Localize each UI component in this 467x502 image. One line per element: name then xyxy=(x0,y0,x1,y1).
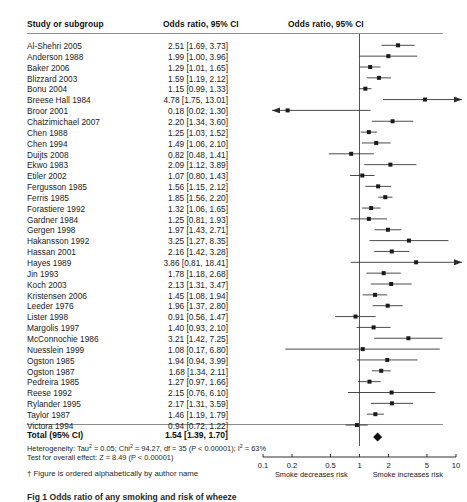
effect-marker xyxy=(385,358,389,362)
effect-marker xyxy=(367,217,371,221)
study-odds-ratio-value: 1.25 [0.81, 1.93] xyxy=(110,215,228,225)
study-odds-ratio-value: 1.68 [1.34, 2.11] xyxy=(110,367,228,377)
axis-tick-label: 2 xyxy=(386,461,390,470)
effect-marker xyxy=(390,249,394,253)
study-odds-ratio-value: 1.97 [1.43, 2.71] xyxy=(110,225,228,235)
study-label: Ogston 1985 xyxy=(27,356,75,366)
study-label: Chatzimichael 2007 xyxy=(27,117,100,127)
study-label: Koch 2003 xyxy=(27,280,67,290)
study-odds-ratio-value: 1.78 [1.18, 2.68] xyxy=(110,269,228,279)
axis-tick-label: 0.5 xyxy=(325,461,336,470)
study-odds-ratio-value: 1.15 [0.99, 1.33] xyxy=(110,84,228,94)
study-odds-ratio-value: 1.08 [0.17, 6.80] xyxy=(110,345,228,355)
effect-marker xyxy=(368,65,372,69)
study-odds-ratio-value: 2.17 [1.31, 3.59] xyxy=(110,399,228,409)
study-label: Hassan 2001 xyxy=(27,247,76,257)
heterogeneity-stats: Heterogeneity: Tau2 = 0.05; Chi2 = 94.27… xyxy=(27,443,266,453)
study-label: Taylor 1987 xyxy=(27,410,70,420)
effect-marker xyxy=(390,401,394,405)
axis-tick-label: 1 xyxy=(357,461,361,470)
effect-marker xyxy=(376,184,380,188)
column-header-plot: Odds ratio, 95% CI xyxy=(288,19,364,29)
effect-marker xyxy=(349,152,353,156)
study-label: Hakansson 1992 xyxy=(27,236,89,246)
effect-marker xyxy=(414,260,418,264)
effect-marker xyxy=(406,336,410,340)
study-odds-ratio-value: 1.56 [1.15, 2.12] xyxy=(110,182,228,192)
effect-marker xyxy=(407,239,411,243)
study-odds-ratio-value: 1.25 [1.03, 1.52] xyxy=(110,128,228,138)
study-label: Chen 1994 xyxy=(27,139,68,149)
study-odds-ratio-value: 1.45 [1.08, 1.94] xyxy=(110,291,228,301)
effect-marker xyxy=(382,271,386,275)
effect-marker xyxy=(390,391,394,395)
effect-marker xyxy=(386,304,390,308)
study-label: Etiler 2002 xyxy=(27,171,67,181)
study-label: Broor 2001 xyxy=(27,106,68,116)
study-label: Nuesslein 1999 xyxy=(27,345,84,355)
effect-marker xyxy=(389,282,393,286)
study-label: Anderson 1988 xyxy=(27,52,83,62)
study-odds-ratio-value: 2.16 [1.42, 3.28] xyxy=(110,247,228,257)
study-odds-ratio-value: 1.99 [1.00, 3.96] xyxy=(110,52,228,62)
effect-marker xyxy=(388,163,392,167)
study-label: Fergusson 1985 xyxy=(27,182,87,192)
study-odds-ratio-value: 1.85 [1.56, 2.20] xyxy=(110,193,228,203)
overall-effect-stats: Test for overall effect: Z = 8.49 (P < 0… xyxy=(27,453,173,462)
effect-marker xyxy=(360,174,364,178)
study-label: Al-Shehri 2005 xyxy=(27,41,82,51)
column-header-odds-ratio: Odds ratio, 95% CI xyxy=(163,19,239,29)
study-odds-ratio-value: 1.59 [1.19, 2.12] xyxy=(110,74,228,84)
effect-marker xyxy=(383,195,387,199)
study-odds-ratio-value: 4.78 [1.75, 13.01] xyxy=(110,95,228,105)
effect-marker xyxy=(368,380,372,384)
axis-tick-label: 5 xyxy=(425,461,429,470)
study-label: Margolis 1997 xyxy=(27,323,79,333)
axis-label-decreases-risk: Smoke decreases risk xyxy=(275,470,348,479)
study-label: Bonu 2004 xyxy=(27,84,67,94)
study-label: Ogston 1987 xyxy=(27,367,75,377)
effect-marker xyxy=(396,43,400,47)
effect-marker xyxy=(354,315,358,319)
het-end: = 63% xyxy=(243,444,266,453)
study-odds-ratio-value: 1.27 [0.97, 1.66] xyxy=(110,377,228,387)
effect-marker xyxy=(386,228,390,232)
effect-marker xyxy=(391,119,395,123)
effect-marker xyxy=(386,54,390,58)
study-odds-ratio-value: 1.29 [1.01, 1.65] xyxy=(110,63,228,73)
study-odds-ratio-value: 2.15 [0.76, 6.10] xyxy=(110,388,228,398)
study-label: McConnochie 1986 xyxy=(27,334,99,344)
study-label: Ferris 1985 xyxy=(27,193,69,203)
effect-marker xyxy=(363,87,367,91)
study-label: Ekwo 1983 xyxy=(27,160,68,170)
effect-marker xyxy=(367,130,371,134)
study-odds-ratio-value: 2.20 [1.34, 3.60] xyxy=(110,117,228,127)
effect-marker xyxy=(373,412,377,416)
study-odds-ratio-value: 1.49 [1.06, 2.10] xyxy=(110,139,228,149)
study-odds-ratio-value: 2.09 [1.12, 3.89] xyxy=(110,160,228,170)
axis-tick-label: 0.1 xyxy=(258,461,269,470)
study-label: Duijts 2008 xyxy=(27,150,69,160)
study-odds-ratio-value: 1.07 [0.80, 1.43] xyxy=(110,171,228,181)
study-label: Forastiere 1992 xyxy=(27,204,85,214)
axis-tick-label: 10 xyxy=(452,461,460,470)
study-label: Chen 1988 xyxy=(27,128,68,138)
study-label: Kristensen 2006 xyxy=(27,291,87,301)
summary-diamond xyxy=(373,432,382,441)
study-label: Reese 1992 xyxy=(27,388,72,398)
study-label: Jin 1993 xyxy=(27,269,58,279)
study-odds-ratio-value: 3.25 [1.27, 8.35] xyxy=(110,236,228,246)
study-odds-ratio-value: 2.13 [1.31, 3.47] xyxy=(110,280,228,290)
study-odds-ratio-value: 1.46 [1.19, 1.79] xyxy=(110,410,228,420)
study-label: Gergen 1998 xyxy=(27,225,75,235)
effect-marker xyxy=(423,98,427,102)
effect-marker xyxy=(372,325,376,329)
study-label: Lister 1998 xyxy=(27,312,68,322)
effect-marker xyxy=(369,206,373,210)
effect-marker xyxy=(377,76,381,80)
study-label: Hayes 1989 xyxy=(27,258,71,268)
study-odds-ratio-value: 1.96 [1.37, 2.80] xyxy=(110,301,228,311)
column-header-study: Study or subgroup xyxy=(27,19,104,29)
study-odds-ratio-value: 0.82 [0.48, 1.41] xyxy=(110,150,228,160)
